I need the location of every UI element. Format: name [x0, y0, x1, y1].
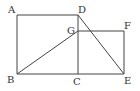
label-B: B	[7, 74, 14, 85]
label-C: C	[73, 76, 81, 87]
label-F: F	[124, 20, 131, 31]
label-E: E	[124, 75, 131, 86]
geometry-diagram: A D G F B C E	[0, 0, 140, 91]
segment-DE	[78, 15, 124, 74]
label-A: A	[7, 4, 16, 15]
segment-BG	[17, 31, 78, 74]
label-G: G	[67, 25, 75, 36]
label-D: D	[78, 4, 86, 15]
